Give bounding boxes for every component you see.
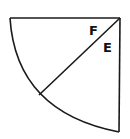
sector-figure: F E — [0, 0, 130, 139]
right-radius — [119, 18, 120, 132]
bisecting-radius — [39, 18, 120, 95]
label-f: F — [89, 23, 98, 38]
diagram-canvas: F E — [0, 0, 130, 139]
label-e: E — [103, 40, 112, 55]
